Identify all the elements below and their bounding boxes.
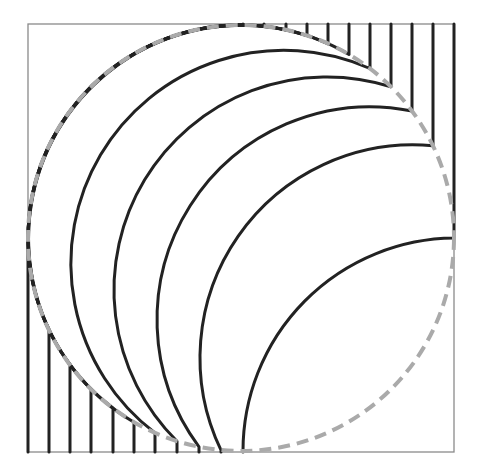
diagram-svg: [0, 0, 480, 474]
field-line: [157, 24, 412, 452]
field-line: [29, 24, 349, 452]
field-line: [243, 24, 454, 452]
field-line: [200, 24, 433, 452]
field-line: [28, 24, 243, 452]
field-line: [28, 24, 286, 452]
field-line: [28, 24, 264, 452]
field-line: [71, 24, 370, 452]
dashed-circle: [28, 25, 454, 451]
diagram-canvas: [0, 0, 480, 474]
